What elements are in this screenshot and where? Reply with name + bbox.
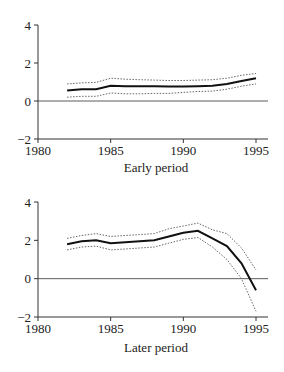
x-tick-label: 1980 [25,321,51,336]
y-tick-label: 0 [25,94,32,109]
chart-later-period: 420−21980198519901995Later period [17,195,269,356]
figure: 420−21980198519901995Early period 420−21… [0,0,284,372]
x-tick-label: 1990 [170,143,196,158]
y-tick-label: 4 [25,195,32,210]
x-axis-label: Early period [124,160,189,175]
y-tick-label: 4 [25,18,32,33]
confidence-band-line [67,74,256,84]
x-tick-label: 1985 [98,143,124,158]
y-tick-label: 2 [25,56,32,71]
x-tick-label: 1985 [98,321,124,336]
chart-early-period: 420−21980198519901995Early period [17,18,269,176]
x-tick-label: 1980 [25,143,51,158]
estimate-line [67,78,256,90]
x-axis-label: Later period [124,340,188,355]
y-tick-label: 2 [25,233,32,248]
estimate-line [67,231,256,290]
y-tick-label: 0 [25,271,32,286]
x-tick-label: 1995 [243,143,269,158]
confidence-band-line [67,238,256,312]
x-tick-label: 1995 [243,321,269,336]
x-tick-label: 1990 [170,321,196,336]
